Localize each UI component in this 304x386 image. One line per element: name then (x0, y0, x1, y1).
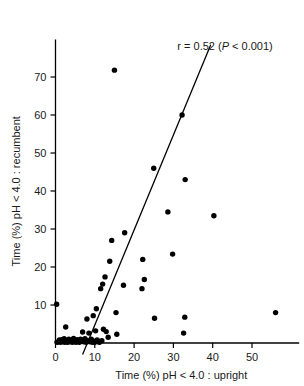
x-tick-label: 40 (207, 351, 219, 363)
data-point (273, 310, 278, 315)
data-point (91, 313, 96, 318)
data-point (102, 274, 107, 279)
data-point (54, 302, 59, 307)
data-point (170, 251, 175, 256)
data-points (54, 67, 278, 344)
x-axis: 01020304050 (52, 343, 299, 363)
x-tick-label: 30 (167, 351, 179, 363)
y-tick-label: 60 (34, 109, 46, 121)
data-point (112, 67, 117, 72)
annotation-suffix: < 0.001) (229, 40, 273, 52)
data-point (122, 230, 127, 235)
data-point (142, 277, 147, 282)
data-point (63, 324, 68, 329)
data-point (139, 286, 144, 291)
y-tick-label: 20 (34, 261, 46, 273)
data-point (99, 338, 104, 343)
data-point (109, 238, 114, 243)
correlation-annotation: r = 0.52 (P < 0.001) (177, 40, 272, 52)
data-point (179, 112, 184, 117)
data-point (182, 314, 187, 319)
data-point (100, 281, 105, 286)
y-tick-label: 30 (34, 223, 46, 235)
data-point (165, 209, 170, 214)
x-tick-label: 0 (52, 351, 58, 363)
data-point (84, 316, 89, 321)
x-tick-label: 50 (246, 351, 258, 363)
data-point (94, 306, 99, 311)
data-point (151, 166, 156, 171)
data-point (182, 177, 187, 182)
data-point (140, 257, 145, 262)
annotation-prefix: r = 0.52 ( (177, 40, 222, 52)
plot-canvas: 10203040506070 01020304050 Time (%) pH <… (0, 0, 304, 386)
regression-line (83, 45, 211, 355)
y-tick-label: 50 (34, 147, 46, 159)
data-point (93, 328, 98, 333)
data-point (86, 330, 91, 335)
data-point (121, 283, 126, 288)
data-point (80, 329, 85, 334)
data-point (113, 310, 118, 315)
y-tick-label: 40 (34, 185, 46, 197)
x-axis-title: Time (%) pH < 4.0 : upright (115, 369, 247, 381)
y-axis: 10203040506070 (34, 40, 55, 343)
scatter-plot-figure: 10203040506070 01020304050 Time (%) pH <… (0, 0, 304, 386)
annotations: r = 0.52 (P < 0.001) (177, 40, 272, 52)
y-tick-label: 70 (34, 71, 46, 83)
x-tick-label: 20 (128, 351, 140, 363)
data-point (104, 329, 109, 334)
y-axis-title: Time (%) pH < 4.0 : recumbent (10, 116, 22, 266)
data-point (211, 213, 216, 218)
data-point (107, 259, 112, 264)
data-point (114, 332, 119, 337)
data-point (152, 316, 157, 321)
data-point (181, 330, 186, 335)
data-point (105, 335, 110, 340)
y-tick-label: 10 (34, 299, 46, 311)
x-tick-label: 10 (89, 351, 101, 363)
regression-line-segment (83, 45, 211, 355)
